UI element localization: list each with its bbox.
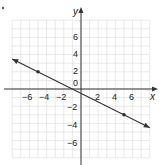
y-tick-label: −6 [67, 138, 77, 148]
bullet-dot [2, 7, 4, 9]
y-axis-label: y [72, 6, 79, 17]
data-point [122, 113, 126, 117]
x-tick-label: −4 [39, 92, 49, 102]
data-point [36, 70, 40, 74]
y-tick-label: −4 [67, 120, 77, 130]
y-tick-label: −2 [67, 102, 77, 112]
x-tick-label: −2 [56, 92, 66, 102]
origin-label: 0 [73, 78, 78, 88]
y-tick-label: 2 [73, 66, 78, 76]
y-axis-arrow-icon [79, 7, 84, 13]
y-tick-label: 6 [73, 32, 78, 42]
x-axis-label: x [149, 91, 156, 102]
x-tick-label: 6 [129, 92, 134, 102]
coordinate-plane: x y −6 −4 −2 2 4 6 6 4 2 0 −2 −4 −6 [0, 0, 162, 165]
x-tick-label: −6 [22, 92, 32, 102]
y-tick-label: 4 [73, 49, 78, 59]
x-tick-label: 4 [112, 92, 117, 102]
